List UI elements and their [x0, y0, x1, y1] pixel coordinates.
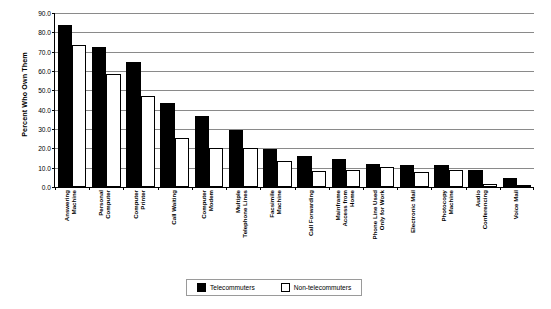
- x-axis-category-labels: AnsweringMachinePersonalComputerComputer…: [54, 190, 533, 272]
- bar: [195, 116, 209, 187]
- bar: [380, 167, 394, 187]
- y-axis-tick-label: 60.0: [38, 68, 51, 75]
- legend-label: Telecommuters: [210, 284, 255, 291]
- bar-group: [363, 13, 397, 187]
- bar: [160, 103, 174, 187]
- bar: [277, 161, 291, 187]
- y-axis-tick-label: 0.0: [42, 184, 51, 191]
- x-axis-category-label: Electronic Mail: [410, 190, 417, 233]
- y-axis-tick-label: 50.0: [38, 87, 51, 94]
- bar-group: [123, 13, 157, 187]
- x-axis-category: PhotocopyMachine: [430, 190, 464, 272]
- x-axis-category-label: Call Waiting: [170, 190, 177, 225]
- bar: [503, 178, 517, 187]
- x-axis-category: Voice Mail: [499, 190, 533, 272]
- bar: [468, 170, 482, 187]
- y-axis-tick-label: 70.0: [38, 48, 51, 55]
- y-axis-tick-label: 40.0: [38, 106, 51, 113]
- bar-group: [226, 13, 260, 187]
- bar-group: [431, 13, 465, 187]
- y-axis-tick-label: 20.0: [38, 145, 51, 152]
- x-axis-category: MainframeAccess fromHome: [328, 190, 362, 272]
- bar-series-container: [55, 13, 534, 187]
- bar: [175, 138, 189, 187]
- hollow-square-icon: [281, 283, 290, 292]
- bar: [263, 149, 277, 187]
- bar-group: [89, 13, 123, 187]
- y-axis-tick-label: 80.0: [38, 29, 51, 36]
- plot-area: 0.010.020.030.040.050.060.070.080.090.0: [54, 13, 534, 188]
- x-axis-category-label: MultipleTelephone Lines: [235, 190, 249, 238]
- y-axis-title: Percent Who Own Them: [20, 35, 29, 155]
- x-axis-category: MultipleTelephone Lines: [225, 190, 259, 272]
- x-axis-category: ComputerPrinter: [122, 190, 156, 272]
- bar: [243, 148, 257, 187]
- bar: [483, 184, 497, 187]
- bar: [449, 170, 463, 187]
- bar: [414, 172, 428, 187]
- bar-group: [158, 13, 192, 187]
- x-axis-category: PersonalComputer: [88, 190, 122, 272]
- x-axis-category-label: ComputerPrinter: [133, 190, 147, 219]
- bar: [312, 171, 326, 187]
- x-axis-category: AudioConferencing: [465, 190, 499, 272]
- y-axis-tick-label: 90.0: [38, 10, 51, 17]
- x-axis-category-label: AnsweringMachine: [64, 190, 78, 221]
- bar: [106, 74, 120, 187]
- bar: [366, 164, 380, 187]
- bar: [517, 185, 531, 187]
- bar-group: [500, 13, 534, 187]
- bar-group: [329, 13, 363, 187]
- x-axis-category-label: Call Forwarding: [307, 190, 314, 236]
- x-axis-category-label: ComputerModem: [201, 190, 215, 219]
- x-axis-category-label: AudioConferencing: [475, 190, 489, 229]
- x-axis-tick-mark: [533, 187, 534, 190]
- x-axis-category: Call Waiting: [157, 190, 191, 272]
- bar: [58, 25, 72, 187]
- x-axis-category-label: Phone Line UsedOnly for Work: [372, 190, 386, 239]
- bar-group: [295, 13, 329, 187]
- bar: [297, 156, 311, 187]
- legend-item: Telecommuters: [197, 283, 255, 292]
- bar: [92, 47, 106, 187]
- bar-group: [192, 13, 226, 187]
- bar: [209, 148, 223, 187]
- x-axis-category: AnsweringMachine: [54, 190, 88, 272]
- bar: [346, 170, 360, 187]
- filled-square-icon: [197, 283, 206, 292]
- bar: [126, 62, 140, 187]
- x-axis-category-label: PersonalComputer: [99, 190, 113, 219]
- bar: [141, 96, 155, 187]
- x-axis-category: Call Forwarding: [294, 190, 328, 272]
- bar-group: [397, 13, 431, 187]
- bar: [434, 165, 448, 187]
- bar: [332, 159, 346, 187]
- legend-item: Non-telecommuters: [281, 283, 352, 292]
- bar-group: [260, 13, 294, 187]
- bar: [400, 165, 414, 187]
- bar-chart: Percent Who Own Them 0.010.020.030.040.0…: [0, 0, 551, 309]
- x-axis-category: Electronic Mail: [396, 190, 430, 272]
- bar-group: [466, 13, 500, 187]
- x-axis-category-label: FacsimileMachine: [270, 190, 284, 218]
- y-axis-tick-label: 10.0: [38, 164, 51, 171]
- x-axis-category: Phone Line UsedOnly for Work: [362, 190, 396, 272]
- x-axis-category: ComputerModem: [191, 190, 225, 272]
- x-axis-category-label: MainframeAccess fromHome: [335, 190, 355, 227]
- y-axis-tick-label: 30.0: [38, 126, 51, 133]
- x-axis-category: FacsimileMachine: [259, 190, 293, 272]
- legend-label: Non-telecommuters: [294, 284, 352, 291]
- bar: [72, 45, 86, 187]
- x-axis-category-label: Voice Mail: [513, 190, 520, 219]
- bar-group: [55, 13, 89, 187]
- bar: [229, 130, 243, 187]
- x-axis-category-label: PhotocopyMachine: [441, 190, 455, 221]
- chart-legend: TelecommutersNon-telecommuters: [186, 279, 362, 296]
